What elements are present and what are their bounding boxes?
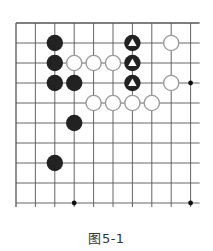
black-stone: [66, 115, 82, 131]
white-stone: [164, 75, 179, 90]
white-stone: [164, 35, 179, 50]
star-point: [72, 201, 77, 206]
star-point: [188, 81, 193, 86]
black-stone: [47, 155, 63, 171]
black-stone: [47, 75, 63, 91]
go-board: [0, 0, 213, 220]
white-stone: [144, 95, 159, 110]
white-stone: [105, 55, 120, 70]
star-point: [188, 201, 193, 206]
black-stone: [66, 75, 82, 91]
figure-caption: 图5-1: [0, 228, 213, 247]
white-stone: [67, 55, 82, 70]
white-stone: [86, 95, 101, 110]
white-stone: [105, 95, 120, 110]
black-stone: [47, 55, 63, 71]
white-stone: [125, 95, 140, 110]
black-stone: [47, 35, 63, 51]
white-stone: [86, 55, 101, 70]
